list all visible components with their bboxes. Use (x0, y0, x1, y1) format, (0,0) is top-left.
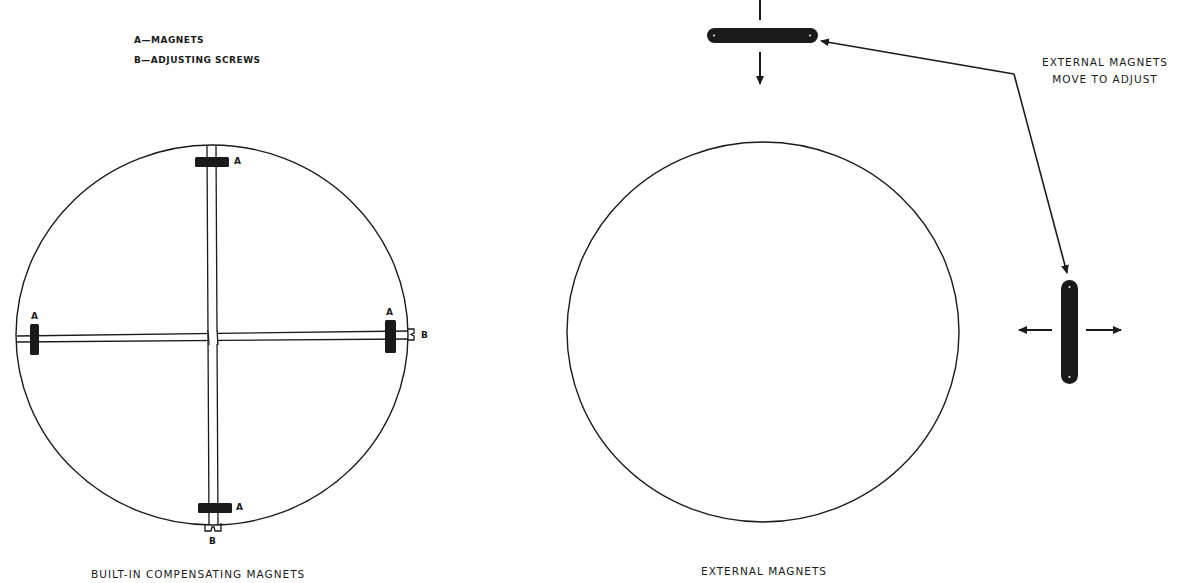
magnet-bottom (198, 503, 232, 513)
caption-external-magnets: EXTERNAL MAGNETS (701, 565, 827, 577)
legend-item-magnets: A—MAGNETS (134, 35, 204, 45)
label-magnet-top: A (234, 156, 241, 166)
legend-item-adjusting-screws: B—ADJUSTING SCREWS (134, 55, 261, 65)
label-screw-right: B (421, 330, 428, 340)
magnet-top (195, 157, 229, 167)
external-magnet-top (707, 28, 818, 43)
label-magnet-right: A (386, 307, 393, 317)
magnet-left (30, 324, 39, 355)
callout-note-line-1: EXTERNAL MAGNETS (1030, 54, 1180, 71)
caption-built-in-magnets: BUILT-IN COMPENSATING MAGNETS (91, 568, 305, 580)
label-magnet-left: A (31, 311, 38, 321)
horizontal-magnet-bar (17, 330, 408, 345)
compass-bowl-outline-external (567, 142, 959, 522)
diagram-canvas: A—MAGNETS B—ADJUSTING SCREWS A A A A B B… (0, 0, 1188, 583)
built-in-compass-figure (16, 145, 414, 531)
callout-arrow-to-right-magnet (1014, 74, 1067, 273)
magnet-right (385, 320, 396, 353)
external-magnet-right (1061, 280, 1078, 384)
callout-note: EXTERNAL MAGNETS MOVE TO ADJUST (1030, 54, 1180, 88)
callout-arrow-to-top-magnet (821, 41, 1014, 74)
diagram-svg (0, 0, 1188, 583)
callout-note-line-2: MOVE TO ADJUST (1030, 71, 1180, 88)
label-magnet-bottom: A (236, 502, 243, 512)
adjusting-screw-right (408, 329, 414, 340)
label-screw-bottom: B (209, 536, 216, 546)
